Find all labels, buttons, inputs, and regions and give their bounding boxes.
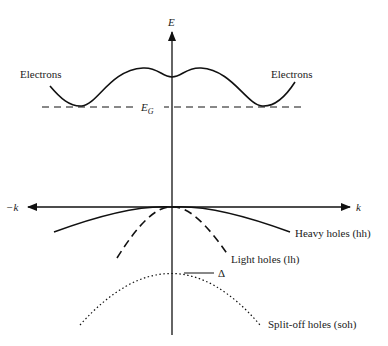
k-axis-negative-label: −k — [6, 201, 19, 213]
split-off-energy-label: Δ — [218, 267, 225, 279]
electrons-label-right: Electrons — [271, 68, 313, 80]
split-off-holes-curve — [80, 274, 260, 326]
k-axis-positive-label: k — [356, 201, 362, 213]
electrons-label-left: Electrons — [20, 68, 62, 80]
light-holes-label: Light holes (lh) — [231, 253, 300, 266]
split-off-holes-label: Split-off holes (soh) — [268, 318, 357, 331]
energy-axis-label: E — [167, 16, 175, 28]
band-diagram: E k −k EG Electrons Electrons Heavy hole… — [0, 0, 388, 346]
heavy-holes-label: Heavy holes (hh) — [295, 227, 371, 240]
